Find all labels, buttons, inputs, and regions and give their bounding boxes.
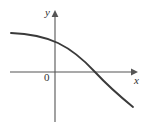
y-axis-label: y [45, 7, 50, 18]
x-axis-label: x [134, 75, 139, 86]
origin-label: 0 [44, 72, 50, 83]
plot-canvas [0, 0, 147, 130]
y-axis-arrow-icon [52, 10, 59, 17]
curve-path [11, 33, 133, 107]
graph-figure: y x 0 [0, 0, 147, 130]
